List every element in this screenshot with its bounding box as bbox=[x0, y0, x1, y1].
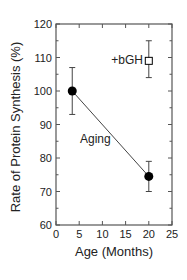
y-tick-label: 100 bbox=[34, 85, 52, 97]
bgh-annotation: +bGH bbox=[111, 53, 143, 67]
y-axis-label: Rate of Protein Synthesis (%) bbox=[8, 42, 23, 213]
data-point-filled-circle bbox=[68, 87, 77, 96]
x-tick-label: 0 bbox=[53, 228, 59, 240]
x-tick-label: 20 bbox=[143, 228, 155, 240]
y-tick-label: 120 bbox=[34, 18, 52, 30]
y-tick-label: 80 bbox=[40, 152, 52, 164]
x-tick-label: 25 bbox=[166, 228, 178, 240]
y-tick-label: 60 bbox=[40, 219, 52, 231]
aging-annotation: Aging bbox=[80, 132, 111, 146]
y-tick-label: 90 bbox=[40, 119, 52, 131]
chart: 60708090100110120 0510152025 Rate of Pro… bbox=[0, 0, 187, 280]
y-tick-label: 70 bbox=[40, 186, 52, 198]
data-point-open-square bbox=[145, 57, 152, 64]
x-tick-label: 15 bbox=[119, 228, 131, 240]
x-axis-label: Age (Months) bbox=[75, 244, 153, 259]
y-tick-label: 110 bbox=[34, 52, 52, 64]
data-point-filled-circle bbox=[144, 172, 153, 181]
x-tick-label: 5 bbox=[76, 228, 82, 240]
x-tick-label: 10 bbox=[96, 228, 108, 240]
